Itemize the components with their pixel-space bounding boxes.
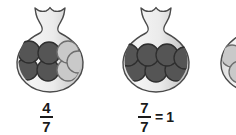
vase-group-3 xyxy=(206,0,236,135)
vase-illustration-3 xyxy=(206,0,236,105)
vase-group-2: 7 7 = 1 xyxy=(108,0,204,135)
fractions-illustration: 4 7 xyxy=(0,0,236,135)
fraction-numerator: 4 xyxy=(41,100,51,115)
fraction-numerator: 7 xyxy=(139,100,149,115)
vase-illustration-2 xyxy=(108,0,204,105)
fraction-denominator: 7 xyxy=(41,119,51,134)
vase-illustration-1 xyxy=(2,0,98,105)
vase-group-1: 4 7 xyxy=(2,0,98,135)
fraction-label-2: 7 7 = 1 xyxy=(108,100,204,134)
fraction-denominator: 7 xyxy=(139,119,149,134)
whole-value: 1 xyxy=(166,109,174,125)
equals-sign: = xyxy=(155,109,163,125)
fraction-label-3 xyxy=(206,100,236,104)
fraction-label-1: 4 7 xyxy=(2,100,98,134)
